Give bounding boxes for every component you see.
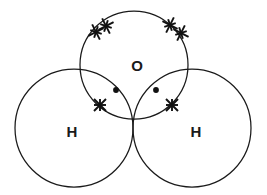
bond-pair-right-cross-1 [166,99,178,111]
atom-label-hydrogen-left: H [67,123,78,140]
lewis-structure-canvas: OHH [0,0,267,195]
bond-pair-left-cross-1 [94,99,106,111]
bond-pair-right-dot-0 [153,87,159,93]
bond-pair-left-dot-0 [113,87,119,93]
diagram-background [0,0,267,195]
atom-label-oxygen: O [131,57,143,74]
atom-label-hydrogen-right: H [191,123,202,140]
lewis-structure-diagram: OHH [0,0,267,195]
